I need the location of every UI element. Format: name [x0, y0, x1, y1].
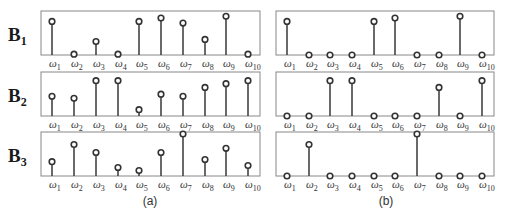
stem-chart-row-b1: ω1ω2ω3ω4ω5ω6ω7ω8ω9ω10: [276, 11, 495, 72]
tick-label: ω6: [392, 118, 404, 133]
stem-marker: [306, 142, 312, 148]
tick-label: ω4: [115, 57, 127, 72]
stem-marker: [115, 78, 121, 84]
tick-label: ω7: [180, 178, 192, 193]
tick-label: ω8: [436, 178, 448, 193]
tick-label: ω4: [115, 118, 127, 133]
stem-marker: [392, 15, 398, 21]
stem-marker: [202, 157, 208, 163]
tick-label: ω6: [158, 118, 170, 133]
row-label-b3: B3: [8, 145, 27, 169]
tick-label: ω5: [371, 118, 383, 133]
panel-a: ω1ω2ω3ω4ω5ω6ω7ω8ω9ω10ω1ω2ω3ω4ω5ω6ω7ω8ω9ω…: [41, 11, 261, 208]
stem-marker: [136, 168, 142, 174]
stem-marker: [457, 14, 463, 20]
stem-marker: [180, 20, 186, 26]
tick-label: ω9: [457, 178, 469, 193]
tick-label: ω10: [479, 118, 495, 133]
tick-label: ω5: [371, 57, 383, 72]
stem-marker: [180, 93, 186, 99]
tick-label: ω10: [245, 178, 261, 193]
stem-marker: [93, 78, 99, 84]
row-label-b1: B1: [8, 24, 27, 48]
stem-marker: [49, 19, 55, 25]
stem-marker: [49, 93, 55, 99]
tick-label: ω5: [136, 118, 148, 133]
stem-marker: [223, 14, 229, 20]
tick-label: ω5: [371, 178, 383, 193]
stem-marker: [202, 37, 208, 43]
stem-chart-row-b2: ω1ω2ω3ω4ω5ω6ω7ω8ω9ω10: [41, 72, 261, 133]
tick-label: ω3: [93, 178, 105, 193]
tick-label: ω6: [158, 57, 170, 72]
stem-marker: [371, 19, 377, 25]
stem-marker: [71, 142, 77, 148]
tick-label: ω1: [284, 57, 296, 72]
tick-label: ω6: [158, 178, 170, 193]
tick-label: ω4: [115, 178, 127, 193]
stem-chart-row-b3: ω1ω2ω3ω4ω5ω6ω7ω8ω9ω10: [276, 131, 495, 193]
stem-marker: [479, 78, 485, 84]
stem-marker: [158, 150, 164, 156]
tick-label: ω2: [306, 178, 318, 193]
stem-marker: [284, 19, 290, 25]
tick-label: ω1: [284, 178, 296, 193]
tick-label: ω3: [327, 178, 339, 193]
stem-chart-row-b3: ω1ω2ω3ω4ω5ω6ω7ω8ω9ω10: [41, 131, 261, 193]
tick-label: ω4: [349, 178, 361, 193]
stem-marker: [158, 15, 164, 21]
stem-chart-row-b2: ω1ω2ω3ω4ω5ω6ω7ω8ω9ω10: [276, 72, 495, 133]
stem-marker: [93, 39, 99, 45]
tick-label: ω1: [49, 118, 61, 133]
stem-marker: [245, 163, 251, 169]
tick-label: ω8: [202, 57, 214, 72]
stem-marker: [245, 78, 251, 84]
tick-label: ω8: [202, 118, 214, 133]
tick-label: ω5: [136, 178, 148, 193]
tick-label: ω3: [327, 57, 339, 72]
tick-label: ω1: [49, 178, 61, 193]
tick-label: ω10: [479, 178, 495, 193]
stem-chart-row-b1: ω1ω2ω3ω4ω5ω6ω7ω8ω9ω10: [41, 11, 261, 72]
tick-label: ω8: [436, 118, 448, 133]
stem-plot-figure: B1B2B3ω1ω2ω3ω4ω5ω6ω7ω8ω9ω10ω1ω2ω3ω4ω5ω6ω…: [0, 0, 516, 218]
tick-label: ω4: [349, 57, 361, 72]
tick-label: ω9: [223, 57, 235, 72]
stem-marker: [349, 78, 355, 84]
tick-label: ω8: [202, 178, 214, 193]
stem-marker: [93, 150, 99, 156]
tick-label: ω6: [392, 178, 404, 193]
tick-label: ω3: [327, 118, 339, 133]
panel-b: ω1ω2ω3ω4ω5ω6ω7ω8ω9ω10ω1ω2ω3ω4ω5ω6ω7ω8ω9ω…: [276, 11, 495, 208]
tick-label: ω7: [414, 57, 426, 72]
tick-label: ω8: [436, 57, 448, 72]
tick-label: ω9: [223, 178, 235, 193]
tick-label: ω2: [306, 118, 318, 133]
tick-label: ω10: [479, 57, 495, 72]
tick-label: ω2: [71, 118, 83, 133]
tick-label: ω9: [457, 57, 469, 72]
tick-label: ω3: [93, 57, 105, 72]
stem-marker: [223, 81, 229, 87]
stem-marker: [71, 96, 77, 102]
stem-marker: [49, 159, 55, 165]
tick-label: ω6: [392, 57, 404, 72]
panel-caption-a: (a): [143, 194, 158, 208]
row-label-b2: B2: [8, 85, 27, 109]
tick-label: ω7: [180, 57, 192, 72]
tick-label: ω5: [136, 57, 148, 72]
stem-marker: [327, 78, 333, 84]
tick-label: ω7: [414, 178, 426, 193]
tick-label: ω2: [71, 178, 83, 193]
tick-label: ω10: [245, 118, 261, 133]
tick-label: ω9: [223, 118, 235, 133]
stem-marker: [223, 145, 229, 151]
tick-label: ω4: [349, 118, 361, 133]
tick-label: ω2: [306, 57, 318, 72]
tick-label: ω3: [93, 118, 105, 133]
stem-marker: [180, 131, 186, 137]
stem-marker: [136, 107, 142, 113]
stem-marker: [158, 91, 164, 97]
panel-caption-b: (b): [379, 194, 394, 208]
tick-label: ω1: [49, 57, 61, 72]
